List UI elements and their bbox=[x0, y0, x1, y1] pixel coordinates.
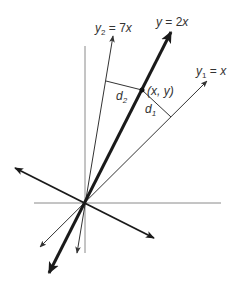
point-xy-dot bbox=[140, 88, 145, 93]
label-y2-7x: y2 = 7x bbox=[94, 21, 133, 37]
label-y-2x: y = 2x bbox=[155, 15, 189, 29]
distance-d2-segment bbox=[106, 81, 142, 90]
label-point-xy: (x, y) bbox=[147, 84, 174, 98]
label-y-eq: = 2 bbox=[162, 15, 183, 29]
label-y-x: x bbox=[181, 15, 189, 29]
label-y1-x: x bbox=[219, 64, 227, 78]
label-d1: d1 bbox=[145, 102, 156, 118]
label-d1-sub: 1 bbox=[152, 109, 156, 118]
label-d2: d2 bbox=[116, 89, 128, 105]
label-y2-x: x bbox=[125, 21, 133, 35]
vector-projection-diagram: y2 = 7x y = 2x y1 = x (x, y) d2 d1 bbox=[0, 0, 243, 284]
line-y2-7x bbox=[77, 36, 113, 253]
label-y1-x: y1 = x bbox=[195, 64, 227, 80]
label-y1-eq: = bbox=[206, 64, 220, 78]
label-d2-sub: 2 bbox=[122, 96, 128, 105]
label-y2-eq: = 7 bbox=[105, 21, 126, 35]
